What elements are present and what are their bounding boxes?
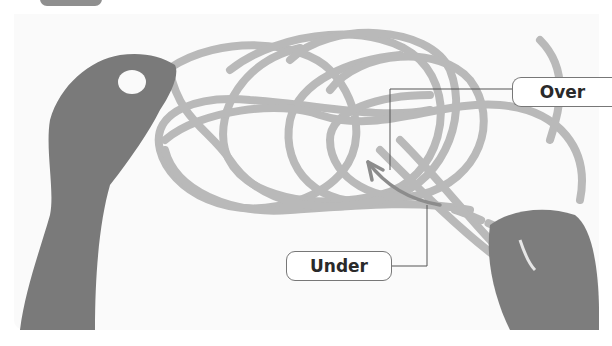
under-callout: Under — [286, 251, 392, 281]
over-callout: Over — [512, 77, 612, 107]
over-label: Over — [540, 82, 585, 102]
under-label: Under — [310, 256, 368, 276]
right-hand — [489, 210, 599, 330]
under-leader-line — [392, 205, 427, 266]
left-hand — [20, 54, 176, 330]
